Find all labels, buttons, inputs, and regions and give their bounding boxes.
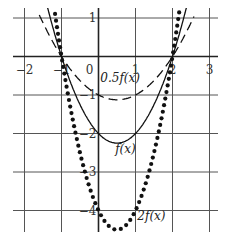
curve-dot [168, 70, 172, 74]
curve-dot [72, 124, 76, 128]
curve-dot [63, 78, 67, 82]
curve-dot [93, 201, 97, 205]
curve-dot [173, 37, 177, 41]
curve-label: 0.5f(x) [100, 71, 140, 85]
curve-dot [146, 175, 150, 179]
curve-dot [85, 176, 89, 180]
curve-dot [163, 97, 167, 101]
curve-dot [56, 32, 60, 36]
curve-dot [64, 85, 68, 89]
curve-dot [89, 189, 93, 193]
curve-dot [107, 224, 111, 228]
curve-dot [67, 98, 71, 102]
curve-dot [159, 116, 163, 120]
y-tick-label: 1 [89, 11, 97, 25]
curve-dot [69, 111, 73, 115]
curve-dot [99, 213, 103, 217]
tick-labels: −2−101231−1−2−3−4 [16, 11, 214, 218]
curve-dot [172, 44, 176, 48]
x-tick-label: 3 [206, 63, 214, 77]
curve-dot [155, 136, 159, 140]
curve-dot [68, 104, 72, 108]
curve-dot [79, 157, 83, 161]
curve-dot [147, 168, 151, 172]
curve-dot [58, 45, 62, 49]
curve-dot [171, 50, 175, 54]
curve-dot [137, 200, 141, 204]
curve-dot [166, 83, 170, 87]
curve-dot [149, 162, 153, 166]
grid-lines [13, 8, 218, 232]
curve-dot [132, 212, 136, 216]
curve-2f [53, 10, 181, 231]
curve-dot [54, 19, 58, 23]
curve-dot [169, 64, 173, 68]
curve-dot [162, 103, 166, 107]
curve-labels: 0.5f(x)f(x)2f(x) [100, 71, 166, 224]
curve-dot [61, 65, 65, 69]
curve-dot [139, 194, 143, 198]
curve-dot [112, 227, 116, 231]
curve-dot [128, 218, 132, 222]
y-tick-label: −1 [79, 88, 97, 102]
curve-dot [66, 91, 70, 95]
curve-label: 2f(x) [136, 209, 166, 223]
curve-dot [78, 150, 82, 154]
curves [39, 0, 194, 231]
x-tick-label: 0 [86, 63, 94, 77]
curve-dot [158, 123, 162, 127]
curve-dot [75, 137, 79, 141]
curve-dot [59, 52, 63, 56]
curve-dot [60, 58, 64, 62]
curve-dot [124, 223, 128, 227]
curve-dot [71, 118, 75, 122]
curve-dot [142, 188, 146, 192]
curve-dot [119, 227, 123, 231]
function-graph: −2−101231−1−2−3−4 0.5f(x)f(x)2f(x) [0, 0, 230, 242]
curve-dot [62, 72, 66, 76]
curve-dot [152, 149, 156, 153]
curve-dot [86, 182, 90, 186]
curve-dot [83, 170, 87, 174]
curve-dot [102, 219, 106, 223]
curve-dot [174, 30, 178, 34]
curve-dot [81, 163, 85, 167]
curve-dot [76, 144, 80, 148]
curve-dot [151, 155, 155, 159]
curve-dot [164, 90, 168, 94]
curve-dot [157, 129, 161, 133]
curve-dot [177, 10, 181, 14]
curve-dot [170, 57, 174, 61]
curve-dot [167, 77, 171, 81]
x-tick-label: −2 [16, 63, 34, 77]
curve-dot [161, 110, 165, 114]
curve-label: f(x) [114, 142, 136, 156]
y-tick-label: −4 [79, 204, 97, 218]
curve-dot [91, 195, 95, 199]
curve-dot [55, 25, 59, 29]
curve-dot [57, 38, 61, 42]
curve-dot [96, 207, 100, 211]
curve-dot [53, 12, 57, 16]
curve-half-f [39, 15, 194, 100]
curve-dot [154, 142, 158, 146]
curve-dot [175, 24, 179, 28]
curve-dot [176, 17, 180, 21]
axes [13, 8, 218, 232]
curve-dot [73, 131, 77, 135]
curve-dot [144, 181, 148, 185]
